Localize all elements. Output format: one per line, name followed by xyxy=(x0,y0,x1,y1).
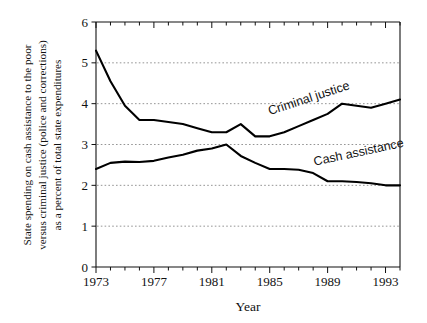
x-tick-labels: 197319771981198519891993 xyxy=(83,274,399,289)
y-tick-label-0: 0 xyxy=(82,260,89,275)
gridlines xyxy=(97,63,399,226)
x-tick-label-1993: 1993 xyxy=(373,274,399,289)
y-axis-title-line-3: as a percent of total state expenditures xyxy=(51,60,63,231)
x-tick-label-1973: 1973 xyxy=(83,274,109,289)
series-label-cash-assistance: Cash assistance xyxy=(312,136,405,169)
series-label-criminal-justice: Criminal justice xyxy=(266,78,351,118)
y-tick-label-4: 4 xyxy=(82,96,89,111)
y-tick-label-1: 1 xyxy=(82,219,89,234)
y-tick-label-2: 2 xyxy=(82,178,89,193)
series-annotations: Criminal justiceCash assistance xyxy=(266,78,405,168)
x-axis-title: Year xyxy=(236,299,261,314)
axis-lines xyxy=(96,22,400,267)
x-tick-label-1985: 1985 xyxy=(257,274,283,289)
y-tick-labels: 0123456 xyxy=(82,15,89,275)
series-lines xyxy=(96,51,400,186)
y-tick-marks xyxy=(92,22,97,267)
series-line-criminal-justice xyxy=(96,51,400,137)
chart-figure: 197319771981198519891993 0123456 Crimina… xyxy=(0,0,427,323)
x-tick-label-1989: 1989 xyxy=(315,274,341,289)
y-tick-label-6: 6 xyxy=(82,15,89,30)
y-axis-title-line-1: State spending on cash assistance to the… xyxy=(21,44,33,245)
y-tick-label-3: 3 xyxy=(82,137,89,152)
x-tick-label-1977: 1977 xyxy=(141,274,168,289)
y-tick-label-5: 5 xyxy=(82,55,89,70)
y-axis-title: State spending on cash assistance to the… xyxy=(21,40,63,250)
x-tick-label-1981: 1981 xyxy=(199,274,225,289)
line-chart: 197319771981198519891993 0123456 Crimina… xyxy=(0,0,427,323)
y-axis-title-line-2: versus criminal justice (police and corr… xyxy=(36,40,49,250)
